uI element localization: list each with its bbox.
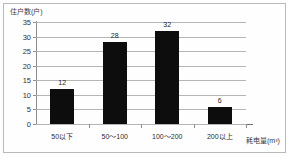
gridline: 20 (36, 66, 246, 67)
y-axis-title: 住户数(户) (10, 6, 43, 16)
x-axis-category-label: 100～200 (152, 131, 182, 141)
bar (103, 42, 127, 124)
bar-value-label: 6 (218, 97, 222, 104)
gridline: 25 (36, 51, 246, 52)
x-tick-mark (141, 124, 142, 128)
y-tick-label: 35 (23, 18, 31, 27)
x-axis-category-label: 50～100 (102, 131, 128, 141)
y-tick-mark (33, 66, 36, 67)
bar-value-label: 12 (58, 79, 66, 86)
x-tick-mark (89, 124, 90, 128)
x-axis-category-label: 200以上 (207, 131, 233, 141)
y-tick-label: 25 (23, 47, 31, 56)
y-tick-label: 0 (27, 120, 31, 129)
y-tick-mark (33, 22, 36, 23)
y-tick-mark (33, 80, 36, 81)
bar-value-label: 28 (111, 32, 119, 39)
x-tick-mark (194, 124, 195, 128)
y-tick-mark (33, 109, 36, 110)
y-tick-label: 10 (23, 90, 31, 99)
y-tick-mark (33, 95, 36, 96)
y-tick-mark (33, 51, 36, 52)
bar (50, 89, 74, 124)
x-axis-category-label: 50以下 (51, 131, 73, 141)
bar (208, 107, 232, 124)
y-tick-mark (33, 124, 36, 125)
gridline: 30 (36, 37, 246, 38)
bar-value-label: 32 (163, 21, 171, 28)
y-tick-label: 20 (23, 61, 31, 70)
gridline: 35 (36, 22, 246, 23)
y-tick-label: 15 (23, 76, 31, 85)
x-tick-mark (246, 124, 247, 128)
x-axis-title: 耗电量(m³) (246, 135, 280, 145)
plot-area: 05101520253035 1228326 (36, 22, 246, 124)
gridline: 15 (36, 80, 246, 81)
bar-chart-figure: 住户数(户) 耗电量(m³) 05101520253035 1228326 50… (0, 0, 289, 156)
y-tick-label: 5 (27, 105, 31, 114)
bar (155, 31, 179, 124)
y-tick-mark (33, 37, 36, 38)
y-tick-label: 30 (23, 32, 31, 41)
